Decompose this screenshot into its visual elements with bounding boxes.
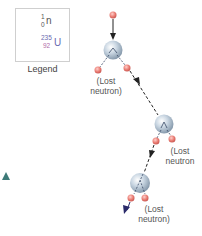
- arrowhead-icon: [133, 77, 140, 85]
- lost-neutron-label-1: (Lost neutron): [86, 76, 126, 96]
- neutron-1-icon: [124, 65, 131, 72]
- neutron-2-icon: [153, 138, 160, 145]
- arrowhead-icon: [149, 150, 155, 158]
- legend-uranium-symbol: 235 92 U: [41, 35, 67, 53]
- lost-neutron-2-icon: [169, 136, 176, 143]
- incoming-neutron-icon: [110, 12, 117, 19]
- legend-neutron-symbol: 1 0 n: [41, 14, 61, 30]
- lost-neutron-label-3: (Lost neutron): [132, 204, 176, 224]
- arrowhead-icon: [110, 33, 116, 40]
- lost-neutron-3-icon: [142, 195, 149, 202]
- uranium-nucleus-2: [155, 115, 174, 134]
- lost-neutron-1-icon: [95, 67, 102, 74]
- lost-neutron-label-2: (Lost neutron: [158, 146, 202, 166]
- final-arrowhead-icon: [123, 205, 130, 214]
- triangle-marker-icon: [2, 172, 10, 180]
- uranium-nucleus-3: [130, 173, 150, 193]
- legend-caption: Legend: [15, 64, 70, 74]
- neutron-3-icon: [128, 195, 135, 202]
- uranium-nucleus-1: [104, 41, 123, 60]
